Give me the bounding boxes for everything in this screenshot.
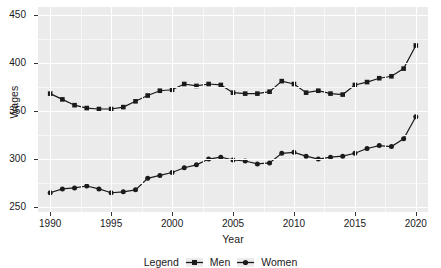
x-tick-label: 2020 <box>396 218 436 229</box>
data-point <box>279 151 284 156</box>
data-point <box>377 143 382 148</box>
data-point <box>365 146 370 151</box>
data-point <box>304 90 309 95</box>
data-point <box>121 105 126 110</box>
data-point <box>255 161 260 166</box>
data-point <box>377 76 382 81</box>
data-point <box>157 173 162 178</box>
data-point <box>304 154 309 159</box>
grid-line-major-vertical <box>416 7 417 212</box>
data-point <box>72 185 77 190</box>
grid-line-minor-vertical <box>142 7 143 212</box>
legend-key-women <box>237 258 254 267</box>
plot-panel <box>38 7 428 212</box>
data-point <box>243 91 248 96</box>
x-tick-mark <box>172 212 173 216</box>
data-point <box>60 97 65 102</box>
grid-line-minor-vertical <box>385 7 386 212</box>
data-point <box>365 80 370 85</box>
data-point <box>279 79 284 84</box>
data-point <box>96 186 101 191</box>
legend-label-men: Men <box>210 256 230 268</box>
data-point <box>60 186 65 191</box>
x-tick-label: 1995 <box>91 218 131 229</box>
legend-label-women: Women <box>261 256 297 268</box>
data-point <box>84 106 89 111</box>
wages-line-chart: Wages Year 250300350400450 1990199520002… <box>0 0 441 268</box>
x-tick-mark <box>233 212 234 216</box>
grid-line-major-vertical <box>233 7 234 212</box>
data-point <box>255 91 260 96</box>
data-point <box>133 187 138 192</box>
data-point <box>84 184 89 189</box>
x-tick-mark <box>111 212 112 216</box>
grid-line-minor-vertical <box>203 7 204 212</box>
grid-line-minor-vertical <box>324 7 325 212</box>
data-point <box>389 74 394 79</box>
grid-line-major-vertical <box>294 7 295 212</box>
data-point <box>194 162 199 167</box>
data-point <box>328 91 333 96</box>
grid-line-major-vertical <box>355 7 356 212</box>
x-tick-mark <box>416 212 417 216</box>
data-point <box>182 82 187 87</box>
data-point <box>72 103 77 108</box>
data-point <box>182 165 187 170</box>
grid-line-minor-vertical <box>81 7 82 212</box>
data-point <box>316 88 321 93</box>
data-point <box>145 176 150 181</box>
data-point <box>340 154 345 159</box>
data-point <box>389 144 394 149</box>
data-point <box>401 66 406 71</box>
data-point <box>158 88 163 93</box>
data-point <box>206 82 211 87</box>
data-point <box>267 160 272 165</box>
x-tick-mark <box>50 212 51 216</box>
x-tick-label: 2005 <box>213 218 253 229</box>
grid-line-major-vertical <box>111 7 112 212</box>
data-point <box>133 99 138 104</box>
grid-line-minor-vertical <box>264 7 265 212</box>
data-point <box>340 92 345 97</box>
data-point <box>145 93 150 98</box>
legend-title: Legend <box>144 256 179 268</box>
x-tick-mark <box>355 212 356 216</box>
grid-line-major-vertical <box>50 7 51 212</box>
x-tick-label: 2000 <box>152 218 192 229</box>
legend-key-men <box>186 258 203 267</box>
grid-line-major-vertical <box>172 7 173 212</box>
x-tick-mark <box>294 212 295 216</box>
chart-legend: Legend Men Women <box>0 256 441 268</box>
data-point <box>401 136 406 141</box>
x-tick-label: 2015 <box>335 218 375 229</box>
x-tick-label: 2010 <box>274 218 314 229</box>
x-tick-label: 1990 <box>30 218 70 229</box>
data-point <box>121 189 126 194</box>
data-point <box>267 89 272 94</box>
